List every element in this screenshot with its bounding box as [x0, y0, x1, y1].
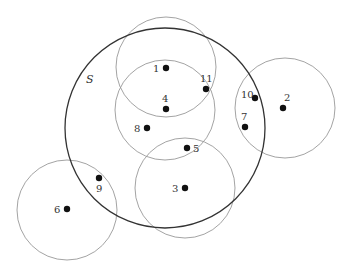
set-s-label: S: [86, 73, 94, 86]
point-3-dot: [182, 185, 188, 191]
point-2-dot: [280, 105, 286, 111]
set-s-circle: [65, 28, 265, 228]
big-circle-s: [65, 28, 265, 228]
point-6-label: 6: [54, 204, 60, 215]
circle-cover-diagram: S 1234567891011: [0, 0, 350, 270]
point-5-label: 5: [193, 143, 199, 154]
point-3-label: 3: [172, 183, 178, 194]
point-5-dot: [184, 145, 190, 151]
point-11-dot: [203, 86, 209, 92]
point-1-label: 1: [153, 63, 159, 74]
point-1-dot: [163, 65, 169, 71]
point-8-label: 8: [134, 123, 140, 134]
covering-circles: [17, 17, 335, 260]
point-4-dot: [163, 106, 169, 112]
point-10-label: 10: [241, 89, 254, 100]
point-9-dot: [96, 175, 102, 181]
point-7-label: 7: [241, 111, 247, 122]
point-2-label: 2: [284, 92, 290, 103]
point-9-label: 9: [96, 183, 102, 194]
point-11-label: 11: [200, 73, 213, 84]
point-8-dot: [144, 125, 150, 131]
point-4-label: 4: [162, 93, 168, 104]
point-7-dot: [242, 124, 248, 130]
point-6-dot: [64, 206, 70, 212]
